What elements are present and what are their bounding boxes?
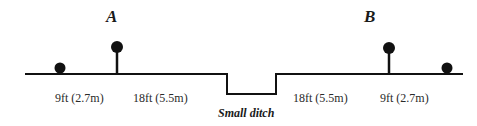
left-ground-ball bbox=[55, 63, 66, 74]
distance-right-inner: 18ft (5.5m) bbox=[293, 91, 348, 106]
ditch-label: Small ditch bbox=[218, 106, 274, 121]
right-ground-ball bbox=[442, 63, 453, 74]
pole-a-ball bbox=[111, 41, 123, 53]
distance-left-outer: 9ft (2.7m) bbox=[55, 91, 104, 106]
distance-right-outer: 9ft (2.7m) bbox=[380, 91, 429, 106]
pole-b-ball bbox=[383, 42, 395, 54]
marker-a-label: A bbox=[106, 7, 117, 27]
marker-b-label: B bbox=[364, 7, 375, 27]
distance-left-inner: 18ft (5.5m) bbox=[133, 91, 188, 106]
